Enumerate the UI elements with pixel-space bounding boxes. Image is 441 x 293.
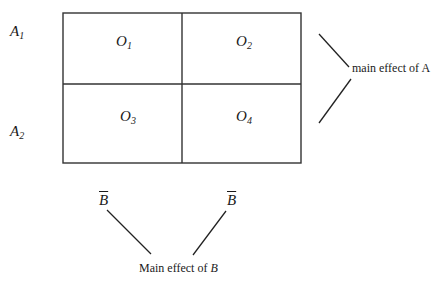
- cell-o1: O1: [116, 34, 132, 51]
- cell-o2: O2: [236, 34, 252, 51]
- main-effect-b-label: Main effect of B: [139, 262, 218, 274]
- row-label-a1: A1: [10, 24, 24, 41]
- column-mean-b-bar-right: B: [227, 193, 236, 208]
- main-effect-a-lower-connector: [319, 79, 351, 123]
- factorial-diagram: [0, 0, 441, 293]
- main-effect-a-label: main effect of A: [352, 62, 430, 74]
- main-effect-b-right-connector: [193, 211, 226, 255]
- main-effect-b-left-connector: [107, 210, 151, 254]
- cell-o4: O4: [236, 109, 252, 126]
- column-mean-b-bar-left: B: [99, 193, 108, 208]
- main-effect-a-upper-connector: [319, 34, 349, 67]
- row-label-a2: A2: [10, 124, 24, 141]
- cell-o3: O3: [120, 109, 136, 126]
